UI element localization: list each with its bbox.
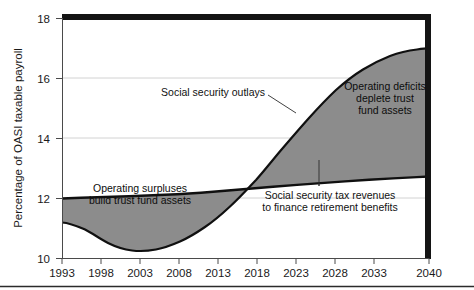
plot-frame-top bbox=[62, 14, 431, 20]
xtick-label-2023: 2023 bbox=[283, 267, 309, 279]
xtick-label-2013: 2013 bbox=[205, 267, 231, 279]
annotation-tax-revenues-line1: Social security tax revenues bbox=[265, 189, 396, 201]
ytick-label-10: 10 bbox=[37, 253, 50, 265]
y-axis-title: Percentage of OASI taxable payroll bbox=[12, 48, 24, 228]
ytick-label-18: 18 bbox=[37, 13, 50, 25]
annotation-operating-surpluses-line1: Operating surpluses bbox=[93, 182, 187, 194]
ytick-label-16: 16 bbox=[37, 73, 50, 85]
annotation-social-security-outlays: Social security outlays bbox=[161, 86, 265, 98]
annotation-operating-deficits-line1: Operating deficits bbox=[344, 80, 426, 92]
xtick-label-2008: 2008 bbox=[166, 267, 192, 279]
plot-frame-right bbox=[425, 14, 431, 259]
y-axis-ticks bbox=[56, 19, 62, 259]
xtick-label-2040: 2040 bbox=[416, 267, 442, 279]
ytick-label-12: 12 bbox=[37, 193, 50, 205]
xtick-label-2033: 2033 bbox=[361, 267, 387, 279]
ytick-label-14: 14 bbox=[37, 133, 50, 145]
annotation-tax-revenues: Social security tax revenues to finance … bbox=[262, 189, 397, 213]
xtick-label-2018: 2018 bbox=[244, 267, 270, 279]
annotation-operating-surpluses-line2: build trust fund assets bbox=[89, 194, 191, 206]
annotation-tax-revenues-line2: to finance retirement benefits bbox=[262, 201, 397, 213]
xtick-label-1993: 1993 bbox=[49, 267, 75, 279]
annotation-operating-deficits-line3: fund assets bbox=[358, 104, 412, 116]
xtick-label-2003: 2003 bbox=[127, 267, 153, 279]
area-chart: 18 16 14 12 10 1993 1998 2003 2008 2013 … bbox=[0, 0, 474, 290]
annotation-operating-deficits-line2: deplete trust bbox=[356, 92, 414, 104]
xtick-label-1998: 1998 bbox=[88, 267, 114, 279]
xtick-label-2028: 2028 bbox=[322, 267, 348, 279]
chart-figure: 18 16 14 12 10 1993 1998 2003 2008 2013 … bbox=[0, 0, 474, 290]
annotation-operating-surpluses: Operating surpluses build trust fund ass… bbox=[89, 182, 191, 206]
